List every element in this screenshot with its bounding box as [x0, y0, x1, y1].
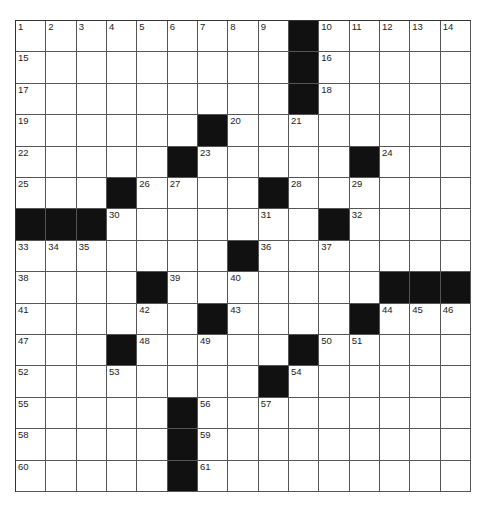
- grid-cell[interactable]: 25: [16, 178, 46, 209]
- grid-cell[interactable]: [289, 304, 319, 335]
- grid-cell[interactable]: 54: [289, 366, 319, 397]
- grid-cell[interactable]: 34: [46, 241, 76, 272]
- grid-cell[interactable]: [441, 335, 471, 366]
- grid-cell[interactable]: [77, 115, 107, 146]
- grid-cell[interactable]: 61: [198, 461, 228, 492]
- grid-cell[interactable]: [168, 241, 198, 272]
- grid-cell[interactable]: [228, 84, 258, 115]
- grid-cell[interactable]: [198, 209, 228, 240]
- grid-cell[interactable]: 14: [441, 21, 471, 52]
- grid-cell[interactable]: [168, 366, 198, 397]
- grid-cell[interactable]: [350, 272, 380, 303]
- grid-cell[interactable]: 38: [16, 272, 46, 303]
- grid-cell[interactable]: [137, 241, 167, 272]
- grid-cell[interactable]: 17: [16, 84, 46, 115]
- grid-cell[interactable]: 19: [16, 115, 46, 146]
- grid-cell[interactable]: [350, 366, 380, 397]
- grid-cell[interactable]: [228, 461, 258, 492]
- grid-cell[interactable]: [168, 335, 198, 366]
- grid-cell[interactable]: 44: [380, 304, 410, 335]
- grid-cell[interactable]: [77, 398, 107, 429]
- grid-cell[interactable]: 49: [198, 335, 228, 366]
- grid-cell[interactable]: 52: [16, 366, 46, 397]
- grid-cell[interactable]: [137, 84, 167, 115]
- grid-cell[interactable]: [441, 366, 471, 397]
- grid-cell[interactable]: 53: [107, 366, 137, 397]
- grid-cell[interactable]: [198, 272, 228, 303]
- grid-cell[interactable]: [350, 429, 380, 460]
- grid-cell[interactable]: 11: [350, 21, 380, 52]
- grid-cell[interactable]: [289, 398, 319, 429]
- grid-cell[interactable]: [289, 241, 319, 272]
- grid-cell[interactable]: [410, 429, 440, 460]
- grid-cell[interactable]: [107, 272, 137, 303]
- grid-cell[interactable]: 47: [16, 335, 46, 366]
- grid-cell[interactable]: 56: [198, 398, 228, 429]
- grid-cell[interactable]: [289, 272, 319, 303]
- grid-cell[interactable]: [441, 52, 471, 83]
- grid-cell[interactable]: 3: [77, 21, 107, 52]
- grid-cell[interactable]: [441, 147, 471, 178]
- grid-cell[interactable]: [319, 366, 349, 397]
- grid-cell[interactable]: [289, 429, 319, 460]
- grid-cell[interactable]: [46, 178, 76, 209]
- grid-cell[interactable]: [319, 178, 349, 209]
- grid-cell[interactable]: [137, 398, 167, 429]
- grid-cell[interactable]: [441, 209, 471, 240]
- grid-cell[interactable]: 31: [259, 209, 289, 240]
- grid-cell[interactable]: [168, 52, 198, 83]
- grid-cell[interactable]: [46, 366, 76, 397]
- grid-cell[interactable]: [137, 461, 167, 492]
- grid-cell[interactable]: [441, 84, 471, 115]
- grid-cell[interactable]: 8: [228, 21, 258, 52]
- grid-cell[interactable]: [198, 241, 228, 272]
- grid-cell[interactable]: [46, 304, 76, 335]
- grid-cell[interactable]: [107, 461, 137, 492]
- grid-cell[interactable]: 41: [16, 304, 46, 335]
- grid-cell[interactable]: 10: [319, 21, 349, 52]
- grid-cell[interactable]: 28: [289, 178, 319, 209]
- grid-cell[interactable]: [46, 272, 76, 303]
- grid-cell[interactable]: [137, 209, 167, 240]
- grid-cell[interactable]: [441, 241, 471, 272]
- grid-cell[interactable]: [168, 115, 198, 146]
- grid-cell[interactable]: [137, 52, 167, 83]
- grid-cell[interactable]: [137, 115, 167, 146]
- grid-cell[interactable]: [350, 398, 380, 429]
- grid-cell[interactable]: [410, 398, 440, 429]
- grid-cell[interactable]: 37: [319, 241, 349, 272]
- grid-cell[interactable]: [228, 429, 258, 460]
- grid-cell[interactable]: 50: [319, 335, 349, 366]
- grid-cell[interactable]: [77, 429, 107, 460]
- grid-cell[interactable]: 22: [16, 147, 46, 178]
- grid-cell[interactable]: [380, 178, 410, 209]
- grid-cell[interactable]: [228, 398, 258, 429]
- grid-cell[interactable]: [137, 429, 167, 460]
- grid-cell[interactable]: 39: [168, 272, 198, 303]
- grid-cell[interactable]: [168, 209, 198, 240]
- grid-cell[interactable]: [289, 209, 319, 240]
- grid-cell[interactable]: [137, 366, 167, 397]
- grid-cell[interactable]: [319, 461, 349, 492]
- grid-cell[interactable]: 51: [350, 335, 380, 366]
- grid-cell[interactable]: [107, 84, 137, 115]
- grid-cell[interactable]: 35: [77, 241, 107, 272]
- grid-cell[interactable]: 43: [228, 304, 258, 335]
- grid-cell[interactable]: [77, 178, 107, 209]
- grid-cell[interactable]: [46, 335, 76, 366]
- grid-cell[interactable]: [410, 115, 440, 146]
- grid-cell[interactable]: 48: [137, 335, 167, 366]
- grid-cell[interactable]: [350, 52, 380, 83]
- grid-cell[interactable]: [380, 241, 410, 272]
- grid-cell[interactable]: [77, 461, 107, 492]
- grid-cell[interactable]: [319, 398, 349, 429]
- grid-cell[interactable]: [350, 461, 380, 492]
- grid-cell[interactable]: [410, 209, 440, 240]
- grid-cell[interactable]: [46, 461, 76, 492]
- grid-cell[interactable]: [410, 178, 440, 209]
- grid-cell[interactable]: 42: [137, 304, 167, 335]
- grid-cell[interactable]: 30: [107, 209, 137, 240]
- grid-cell[interactable]: 60: [16, 461, 46, 492]
- grid-cell[interactable]: 55: [16, 398, 46, 429]
- grid-cell[interactable]: [259, 84, 289, 115]
